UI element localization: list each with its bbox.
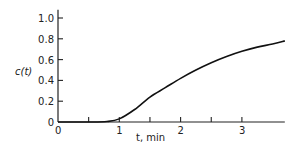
y-tick-label: 0: [48, 117, 54, 128]
x-tick-label: 2: [178, 125, 184, 136]
x-tick-label: 1: [116, 125, 122, 136]
y-tick-label: 0.8: [38, 34, 54, 45]
chart: 012300.20.40.60.81.0 c(t) t, min: [0, 0, 301, 150]
data-line: [58, 41, 285, 122]
x-tick-label: 0: [55, 125, 61, 136]
y-axis-label: c(t): [15, 66, 32, 77]
y-tick-label: 0.4: [38, 75, 54, 86]
x-axis-label: t, min: [136, 132, 165, 143]
axes: [58, 10, 285, 122]
y-tick-label: 0.2: [38, 96, 54, 107]
ticks: 012300.20.40.60.81.0: [38, 13, 245, 136]
x-tick-label: 3: [239, 125, 245, 136]
y-tick-label: 0.6: [38, 55, 54, 66]
y-tick-label: 1.0: [38, 13, 54, 24]
